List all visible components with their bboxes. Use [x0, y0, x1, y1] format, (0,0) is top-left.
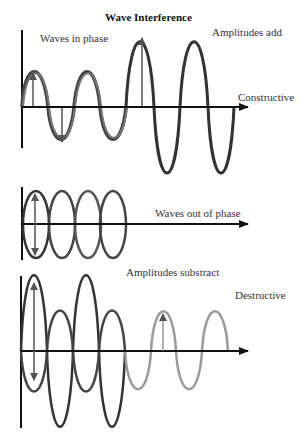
- destructive-label: Destructive: [235, 290, 286, 301]
- in-phase-wave-b: [23, 73, 127, 138]
- waves-in-phase-label: Waves in phase: [40, 33, 108, 44]
- amplitudes-add-label: Amplitudes add: [212, 27, 282, 38]
- waves-out-of-phase-label: Waves out of phase: [155, 208, 241, 219]
- amplitudes-subtract-label: Amplitudes substract: [126, 267, 219, 278]
- constructive-label: Constructive: [238, 92, 294, 103]
- diagram-title: Wave Interference: [105, 12, 192, 23]
- destructive-panel: [21, 275, 248, 428]
- out-of-phase-panel: [22, 187, 248, 260]
- constructive-panel: [22, 30, 248, 173]
- in-phase-wave-a: [22, 72, 126, 140]
- wave-interference-diagram: [0, 0, 306, 444]
